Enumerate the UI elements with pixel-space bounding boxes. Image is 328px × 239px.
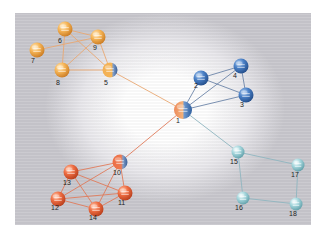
node-label: 11	[118, 199, 125, 206]
edge-1-5	[110, 70, 183, 110]
network-graph: 123456789101112131415161718	[0, 0, 328, 239]
node-label: 16	[235, 204, 243, 211]
node-label: 6	[58, 37, 62, 44]
node-label: 7	[31, 57, 35, 64]
node-sphere-icon	[113, 155, 128, 170]
node-1[interactable]: 1	[174, 101, 192, 124]
node-sphere-icon	[237, 192, 250, 205]
node-sphere-icon	[103, 63, 118, 78]
node-18[interactable]: 18	[289, 198, 303, 218]
edge-15-16	[238, 152, 243, 198]
edges-layer	[37, 29, 298, 209]
node-9[interactable]: 9	[91, 30, 106, 52]
node-sphere-icon	[30, 43, 45, 58]
edge-7-9	[37, 37, 98, 50]
node-sphere-icon	[232, 146, 245, 159]
node-label: 12	[51, 204, 59, 211]
node-sphere-icon	[91, 30, 106, 45]
node-11[interactable]: 11	[118, 186, 133, 207]
node-label: 17	[291, 171, 299, 178]
node-10[interactable]: 10	[113, 155, 128, 177]
node-5[interactable]: 5	[103, 63, 118, 87]
node-label: 5	[104, 79, 108, 86]
node-16[interactable]: 16	[235, 192, 250, 212]
node-label: 15	[230, 158, 238, 165]
node-label: 2	[194, 82, 198, 89]
node-sphere-icon	[55, 63, 70, 78]
node-label: 1	[176, 117, 180, 124]
node-label: 10	[113, 169, 121, 176]
node-label: 4	[233, 72, 237, 79]
node-4[interactable]: 4	[233, 59, 249, 80]
node-15[interactable]: 15	[230, 146, 245, 166]
edge-15-17	[238, 152, 298, 165]
node-7[interactable]: 7	[30, 43, 45, 65]
node-sphere-icon	[292, 159, 305, 172]
node-label: 14	[89, 214, 97, 221]
node-label: 9	[93, 44, 97, 51]
node-sphere-icon	[64, 165, 79, 180]
node-3[interactable]: 3	[239, 88, 254, 109]
node-label: 18	[289, 210, 297, 217]
node-14[interactable]: 14	[89, 202, 104, 222]
node-17[interactable]: 17	[291, 159, 305, 179]
edge-16-18	[243, 198, 296, 204]
edge-1-10	[120, 110, 183, 162]
node-2[interactable]: 2	[194, 71, 209, 90]
edge-1-15	[183, 110, 238, 152]
node-label: 13	[63, 179, 71, 186]
node-label: 3	[240, 101, 244, 108]
node-sphere-icon	[290, 198, 303, 211]
node-12[interactable]: 12	[51, 192, 66, 212]
node-13[interactable]: 13	[63, 165, 79, 187]
node-label: 8	[56, 79, 60, 86]
node-6[interactable]: 6	[58, 22, 73, 45]
node-sphere-icon	[58, 22, 73, 37]
node-8[interactable]: 8	[55, 63, 70, 87]
